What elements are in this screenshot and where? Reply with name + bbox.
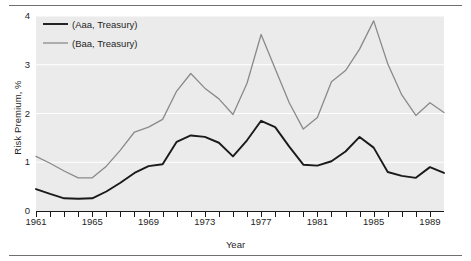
x-tick-label: 1989	[407, 216, 453, 227]
x-tick-label: 1973	[182, 216, 228, 227]
y-tick-label: 2	[8, 108, 30, 119]
legend-label-aaa: (Aaa, Treasury)	[72, 19, 137, 30]
figure: Risk Premium, % Year 01234 1961196519691…	[0, 0, 471, 261]
y-tick-label: 3	[8, 59, 30, 70]
x-tick-label: 1965	[69, 216, 115, 227]
y-tick-label: 1	[8, 156, 30, 167]
y-tick-label: 4	[8, 10, 30, 21]
x-tick-label: 1977	[238, 216, 284, 227]
x-tick-label: 1981	[294, 216, 340, 227]
y-tick-label: 0	[8, 205, 30, 216]
x-tick-label: 1961	[13, 216, 59, 227]
x-tick-label: 1969	[126, 216, 172, 227]
x-axis-label: Year	[0, 239, 471, 250]
legend-label-baa: (Baa, Treasury)	[72, 38, 137, 49]
x-tick-label: 1985	[351, 216, 397, 227]
